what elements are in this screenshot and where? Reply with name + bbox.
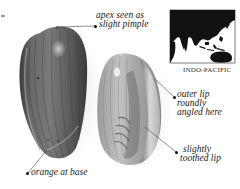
toothed-lip-marker-dot (175, 151, 178, 154)
base-line-1: orange at base (31, 168, 87, 177)
apex-line-2: slight pimple (92, 20, 148, 29)
toothed-lip-line-2: toothed lip (180, 154, 221, 163)
map-region-label: INDO-PACIFIC (183, 66, 231, 74)
base-marker-dot (26, 172, 29, 175)
outer-lip-annotation: outer lip roundly angled here (177, 90, 222, 117)
toothed-lip-annotation: slightly toothed lip (180, 145, 221, 163)
outer-lip-marker-dot (173, 96, 176, 99)
base-annotation: orange at base (31, 168, 87, 177)
outer-lip-line-3: angled here (177, 108, 222, 117)
apex-annotation: apex seen as slight pimple (92, 11, 148, 29)
shell-plate: INDO-PACIFIC apex seen as slight pimple … (0, 0, 240, 189)
